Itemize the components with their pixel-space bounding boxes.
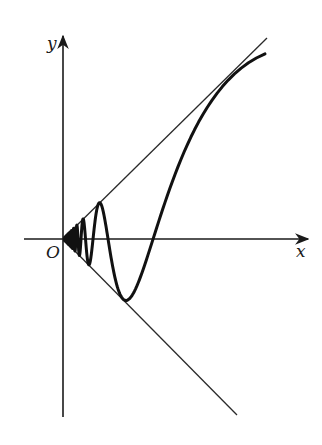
- x-axis-label: x: [296, 241, 306, 261]
- graph-figure: x y O: [0, 0, 322, 445]
- y-axis-label: y: [46, 33, 57, 53]
- origin-label: O: [46, 242, 60, 262]
- oscillating-curve: [65, 54, 266, 301]
- upper-bound-line-y-equals-x: [63, 38, 267, 239]
